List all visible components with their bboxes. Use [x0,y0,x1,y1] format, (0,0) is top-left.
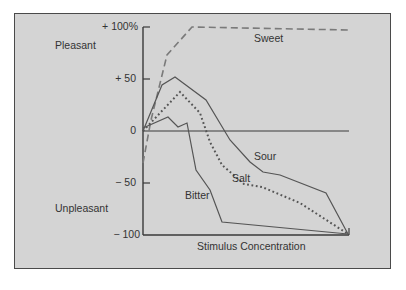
y-tick-label-100: + 100% [88,20,138,32]
sweet-label: Sweet [254,32,283,44]
y-tick-label-m50: − 50 [86,176,136,188]
unpleasant-label: Unpleasant [55,202,108,214]
series-sour [143,77,348,234]
series-salt [143,92,348,234]
x-axis-label: Stimulus Concentration [197,240,306,252]
y-tick-label-0: 0 [86,124,136,136]
salt-label: Salt [232,172,250,184]
pleasant-label: Pleasant [55,39,96,51]
bitter-label: Bitter [185,189,210,201]
y-tick-label-m100: − 100 [90,228,140,240]
y-tick-label-50: + 50 [86,72,136,84]
sour-label: Sour [254,150,276,162]
series-sweet [143,27,348,163]
